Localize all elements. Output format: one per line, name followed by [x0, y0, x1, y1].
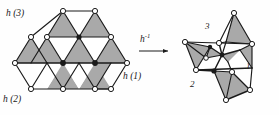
label-map-h-inverse: h-1 — [140, 33, 150, 45]
vertex-open — [92, 8, 97, 13]
map-arrow — [139, 49, 168, 53]
vertex-filled — [211, 68, 216, 73]
vertex-open — [108, 34, 113, 39]
label-region-1: 1 — [246, 62, 251, 71]
vertex-open — [193, 67, 198, 72]
vertex-open — [247, 87, 252, 92]
vertex-open — [60, 86, 65, 91]
label-region-3: 3 — [205, 22, 210, 31]
vertex-open — [182, 39, 187, 44]
vertex-open — [204, 56, 209, 61]
vertex-open — [92, 86, 97, 91]
left-hexagon-panel — [12, 8, 129, 91]
label-h1: h (1) — [123, 72, 141, 82]
vertex-open — [28, 86, 33, 91]
label-map-exponent: -1 — [145, 32, 150, 39]
label-h3: h (3) — [6, 9, 24, 19]
label-h2: h (2) — [3, 95, 21, 105]
vertex-open — [249, 41, 254, 46]
vertex-open — [28, 34, 33, 39]
vertex-open — [124, 60, 129, 65]
vertex-open — [44, 34, 49, 39]
label-region-2: 2 — [190, 80, 195, 89]
vertex-open — [12, 60, 17, 65]
vertex-open — [223, 97, 228, 102]
vertex-filled — [208, 45, 212, 49]
vertex-open — [231, 10, 236, 15]
arrow-head — [163, 49, 168, 53]
vertex-filled — [60, 60, 66, 66]
vertex-filled — [220, 53, 225, 58]
vertex-open — [60, 8, 65, 13]
vertex-filled — [76, 34, 81, 39]
vertex-open — [108, 86, 113, 91]
vertex-open — [216, 40, 221, 45]
math-figure — [0, 0, 279, 115]
vertex-open — [229, 69, 234, 74]
vertex-filled — [92, 60, 98, 66]
